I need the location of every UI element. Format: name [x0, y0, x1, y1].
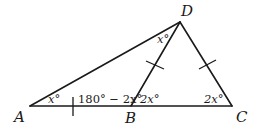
- angle-label-c: 2x°: [203, 92, 224, 106]
- vertex-label-c: C: [236, 108, 248, 126]
- angle-label-adb: x°: [157, 32, 169, 46]
- vertex-label-b: B: [124, 109, 136, 127]
- angle-label-abd: 180° − 2x°: [78, 92, 142, 106]
- angle-label-dbc: 2x°: [139, 92, 160, 106]
- triangle-diagram: A B C D x° x° 180° − 2x° 2x° 2x°: [0, 0, 255, 132]
- angle-label-a: x°: [48, 92, 60, 106]
- vertex-label-a: A: [12, 108, 25, 126]
- vertex-label-d: D: [180, 2, 193, 20]
- tick-mark-bd: [146, 61, 164, 69]
